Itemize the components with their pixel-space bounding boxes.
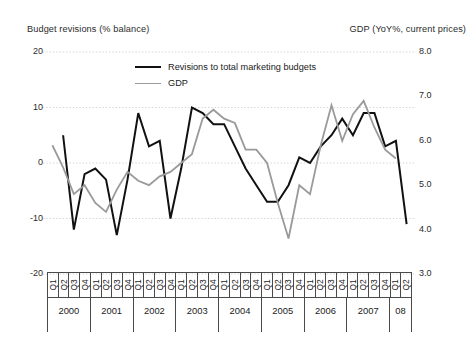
quarter-cell: Q1 <box>305 272 316 298</box>
quarter-label: Q2 <box>144 279 154 290</box>
quarter-label: Q1 <box>262 279 272 290</box>
legend-label: Revisions to total marketing budgets <box>168 62 316 72</box>
quarter-label: Q1 <box>133 279 143 290</box>
quarter-cell: Q1 <box>91 272 102 298</box>
quarter-label: Q4 <box>294 279 304 290</box>
year-cell: 2002 <box>134 298 177 332</box>
quarter-label: Q2 <box>273 279 283 290</box>
chart-container: Budget revisions (% balance) GDP (YoY%, … <box>0 0 476 346</box>
quarter-cell: Q4 <box>294 272 305 298</box>
quarter-label: Q2 <box>315 279 325 290</box>
quarter-label: Q3 <box>241 279 251 290</box>
series-line-revisions <box>63 108 407 236</box>
legend-swatch-icon <box>135 83 161 84</box>
year-label: 2006 <box>315 305 336 316</box>
quarter-cell: Q3 <box>283 272 294 298</box>
quarter-cell: Q4 <box>209 272 220 298</box>
quarter-cell: Q3 <box>326 272 337 298</box>
quarter-cell: Q1 <box>262 272 273 298</box>
quarter-cell: Q2 <box>59 272 70 298</box>
legend-item[interactable]: GDP <box>135 75 316 91</box>
legend: Revisions to total marketing budgetsGDP <box>135 59 316 91</box>
year-label: 08 <box>395 305 405 316</box>
year-cell: 2006 <box>305 298 348 332</box>
quarter-label: Q2 <box>101 279 111 290</box>
year-cell: 2005 <box>262 298 305 332</box>
quarter-cell: Q4 <box>80 272 91 298</box>
quarter-cell: Q2 <box>187 272 198 298</box>
quarter-label: Q3 <box>283 279 293 290</box>
quarter-label: Q3 <box>69 279 79 290</box>
quarter-label: Q1 <box>176 279 186 290</box>
quarter-cell: Q3 <box>69 272 80 298</box>
quarter-cell: Q3 <box>241 272 252 298</box>
quarter-label: Q1 <box>91 279 101 290</box>
year-label: 2007 <box>358 305 379 316</box>
quarter-label: Q4 <box>251 279 261 290</box>
quarter-label: Q1 <box>219 279 229 290</box>
quarter-row: Q1Q2Q3Q4Q1Q2Q3Q4Q1Q2Q3Q4Q1Q2Q3Q4Q1Q2Q3Q4… <box>47 272 412 298</box>
quarter-label: Q2 <box>358 279 368 290</box>
x-axis: Q1Q2Q3Q4Q1Q2Q3Q4Q1Q2Q3Q4Q1Q2Q3Q4Q1Q2Q3Q4… <box>47 272 412 332</box>
quarter-cell: Q3 <box>198 272 209 298</box>
legend-swatch-icon <box>135 66 161 68</box>
quarter-cell: Q2 <box>144 272 155 298</box>
quarter-cell: Q4 <box>251 272 262 298</box>
quarter-cell: Q1 <box>47 272 59 298</box>
quarter-label: Q3 <box>198 279 208 290</box>
quarter-label: Q1 <box>305 279 315 290</box>
quarter-cell: Q3 <box>155 272 166 298</box>
quarter-cell: Q1 <box>176 272 187 298</box>
quarter-label: Q3 <box>326 279 336 290</box>
quarter-label: Q2 <box>187 279 197 290</box>
year-label: 2004 <box>230 305 251 316</box>
legend-item[interactable]: Revisions to total marketing budgets <box>135 59 316 75</box>
year-label: 2000 <box>58 305 79 316</box>
year-label: 2005 <box>272 305 293 316</box>
quarter-cell: Q2 <box>102 272 113 298</box>
quarter-cell: Q2 <box>273 272 284 298</box>
quarter-cell: Q2 <box>401 272 412 298</box>
quarter-label: Q4 <box>208 279 218 290</box>
quarter-cell: Q3 <box>369 272 380 298</box>
quarter-label: Q4 <box>166 279 176 290</box>
year-cell: 08 <box>390 298 412 332</box>
quarter-label: Q2 <box>401 279 411 290</box>
year-cell: 2003 <box>176 298 219 332</box>
quarter-cell: Q2 <box>316 272 327 298</box>
year-label: 2003 <box>187 305 208 316</box>
year-cell: 2007 <box>347 298 390 332</box>
series-lines <box>52 101 406 239</box>
quarter-label: Q2 <box>230 279 240 290</box>
quarter-cell: Q2 <box>358 272 369 298</box>
quarter-cell: Q4 <box>337 272 348 298</box>
quarter-cell: Q1 <box>219 272 230 298</box>
quarter-label: Q1 <box>348 279 358 290</box>
year-cell: 2000 <box>47 298 91 332</box>
quarter-cell: Q4 <box>380 272 391 298</box>
year-row: 2000200120022003200420052006200708 <box>47 298 412 332</box>
quarter-label: Q3 <box>369 279 379 290</box>
quarter-label: Q1 <box>390 279 400 290</box>
quarter-cell: Q1 <box>348 272 359 298</box>
quarter-label: Q4 <box>380 279 390 290</box>
quarter-label: Q1 <box>48 279 58 290</box>
year-cell: 2001 <box>91 298 134 332</box>
quarter-label: Q4 <box>123 279 133 290</box>
quarter-cell: Q4 <box>166 272 177 298</box>
quarter-cell: Q2 <box>230 272 241 298</box>
quarter-cell: Q1 <box>134 272 145 298</box>
year-label: 2001 <box>101 305 122 316</box>
quarter-label: Q3 <box>112 279 122 290</box>
quarter-cell: Q1 <box>391 272 402 298</box>
legend-label: GDP <box>168 78 188 88</box>
year-label: 2002 <box>144 305 165 316</box>
quarter-cell: Q3 <box>112 272 123 298</box>
quarter-label: Q3 <box>155 279 165 290</box>
quarter-label: Q4 <box>80 279 90 290</box>
year-cell: 2004 <box>219 298 262 332</box>
quarter-label: Q2 <box>59 279 69 290</box>
quarter-label: Q4 <box>337 279 347 290</box>
